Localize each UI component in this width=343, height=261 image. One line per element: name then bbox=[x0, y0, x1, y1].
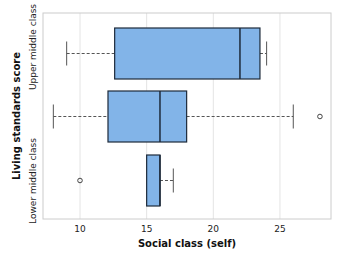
x-tick-label: 15 bbox=[141, 224, 152, 234]
outlier-point bbox=[318, 114, 323, 119]
x-axis-title: Social class (self) bbox=[138, 238, 236, 249]
x-tick-label: 10 bbox=[74, 224, 86, 234]
y-axis-title: Living standards score bbox=[11, 52, 22, 180]
iqr-box bbox=[108, 91, 187, 142]
x-tick-label: 20 bbox=[208, 224, 220, 234]
iqr-box bbox=[115, 28, 260, 79]
box-lower-middle-class bbox=[78, 155, 174, 206]
iqr-box bbox=[147, 155, 160, 206]
category-label-top: Upper middle class bbox=[28, 4, 38, 90]
category-label-bottom: Lower middle class bbox=[28, 138, 38, 224]
box-upper-middle-class bbox=[67, 28, 267, 79]
box-series bbox=[53, 28, 322, 206]
boxplot-chart: 10152025 Social class (self) Living stan… bbox=[0, 0, 343, 261]
x-tick-label: 25 bbox=[274, 224, 285, 234]
x-tick-labels: 10152025 bbox=[74, 224, 285, 234]
box-middle bbox=[53, 91, 322, 142]
